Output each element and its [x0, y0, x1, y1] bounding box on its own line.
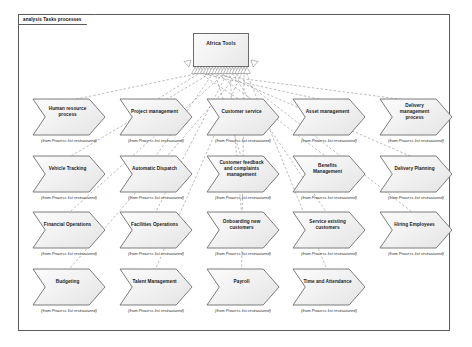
central-component-label: Africa Tools: [206, 41, 236, 46]
process-node-source-caption: (from Process list restructured): [207, 138, 279, 143]
process-node-source-caption: (from Process list restructured): [380, 251, 452, 256]
process-node-label: Vehicle Tracking: [43, 156, 92, 178]
process-node-source-caption: (from Process list restructured): [380, 138, 452, 143]
process-node[interactable]: Delivery management process(from Process…: [380, 99, 452, 135]
process-node-label: Project management: [130, 99, 179, 121]
process-node[interactable]: Asset management(from Process list restr…: [293, 99, 365, 135]
process-node[interactable]: Benefits Management(from Process list re…: [293, 156, 365, 192]
realization-connector: [230, 74, 242, 214]
realization-connector: [235, 74, 414, 214]
process-node-label: Delivery management process: [390, 99, 439, 121]
process-node-label: Benefits Management: [303, 156, 352, 178]
process-node[interactable]: Customer feedback and complaints managem…: [207, 156, 279, 192]
process-node[interactable]: Delivery Planning(from Process list rest…: [380, 156, 452, 192]
process-node-label: Financial Operations: [43, 212, 92, 234]
process-node-label: Service existing customers: [303, 212, 352, 234]
process-node-source-caption: (from Process list restructured): [120, 251, 192, 256]
process-node-label: Talent Management: [130, 269, 179, 291]
process-node[interactable]: Talent Management(from Process list rest…: [120, 269, 192, 305]
process-node[interactable]: Payroll(from Process list restructured): [207, 269, 279, 305]
realization-connector: [155, 74, 227, 214]
process-node-source-caption: (from Process list restructured): [293, 308, 365, 313]
process-node-source-caption: (from Process list restructured): [33, 308, 105, 313]
process-node-label: Facilities Operations: [130, 212, 179, 234]
process-node-source-caption: (from Process list restructured): [120, 308, 192, 313]
realization-arrowhead-outer: [251, 60, 258, 67]
process-node-label: Customer feedback and complaints managem…: [217, 156, 266, 178]
process-node[interactable]: Customer service(from Process list restr…: [207, 99, 279, 135]
realization-arrowhead-outer: [184, 60, 191, 67]
process-node-source-caption: (from Process list restructured): [207, 308, 279, 313]
central-component-africa-tools[interactable]: Africa Tools: [193, 33, 249, 67]
process-node-source-caption: (from Process list restructured): [33, 251, 105, 256]
process-node-label: Asset management: [303, 99, 352, 121]
process-node-label: Payroll: [217, 269, 266, 291]
process-node-source-caption: (from Process list restructured): [33, 195, 105, 200]
realization-connector: [68, 74, 195, 101]
process-node[interactable]: Financial Operations(from Process list r…: [33, 212, 105, 248]
process-node[interactable]: Human resource process(from Process list…: [33, 99, 105, 135]
diagram-canvas: analysis Tasks processes Africa Tools Hu…: [0, 0, 472, 347]
process-node[interactable]: Vehicle Tracking(from Process list restr…: [33, 156, 105, 192]
process-node-source-caption: (from Process list restructured): [120, 138, 192, 143]
process-node-source-caption: (from Process list restructured): [120, 195, 192, 200]
process-node[interactable]: Budgeting(from Process list restructured…: [33, 269, 105, 305]
process-node[interactable]: Automatic Dispatch(from Process list res…: [120, 156, 192, 192]
process-node-source-caption: (from Process list restructured): [293, 138, 365, 143]
process-node-label: Automatic Dispatch: [130, 156, 179, 178]
process-node-source-caption: (from Process list restructured): [33, 138, 105, 143]
realization-connector: [233, 74, 328, 214]
process-node[interactable]: Onboarding new customers(from Process li…: [207, 212, 279, 248]
process-node-source-caption: (from Process list restructured): [207, 251, 279, 256]
process-node-label: Budgeting: [43, 269, 92, 291]
process-node-source-caption: (from Process list restructured): [380, 195, 452, 200]
process-node-label: Time and Attendance: [303, 269, 352, 291]
process-node-source-caption: (from Process list restructured): [293, 251, 365, 256]
realization-connector: [207, 74, 415, 101]
process-node-source-caption: (from Process list restructured): [207, 195, 279, 200]
process-node-source-caption: (from Process list restructured): [293, 195, 365, 200]
process-node[interactable]: Project management(from Process list res…: [120, 99, 192, 135]
process-node[interactable]: Time and Attendance(from Process list re…: [293, 269, 365, 305]
process-node-label: Delivery Planning: [390, 156, 439, 178]
process-node[interactable]: Hiring Employees(from Process list restr…: [380, 212, 452, 248]
process-node[interactable]: Service existing customers(from Process …: [293, 212, 365, 248]
process-node-label: Hiring Employees: [390, 212, 439, 234]
process-node[interactable]: Facilities Operations(from Process list …: [120, 212, 192, 248]
process-node-label: Onboarding new customers: [217, 212, 266, 234]
process-node-label: Human resource process: [43, 99, 92, 121]
process-node-label: Customer service: [217, 99, 266, 121]
